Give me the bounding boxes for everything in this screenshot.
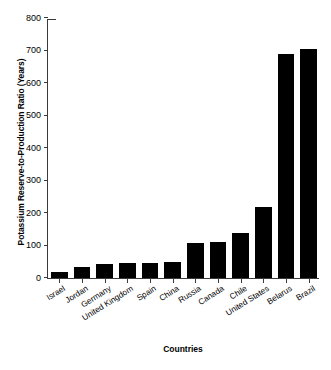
bar [278,54,295,278]
x-tick-mark [59,278,60,283]
x-tick-mark [150,278,151,283]
y-tick-mark [44,147,49,148]
bar [210,242,227,278]
y-tick-label: 500 [26,109,41,122]
bar [300,49,317,278]
y-tick-label: 0 [36,272,41,285]
bar [164,262,181,278]
y-tick-label: 300 [26,174,41,187]
bar [119,263,136,278]
bar [142,263,159,278]
y-tick-mark [44,180,49,181]
x-tick-mark [241,278,242,283]
x-tick-mark [127,278,128,283]
y-tick-label: 200 [26,207,41,220]
x-tick-label-text: Belarus [265,284,294,307]
y-tick-mark [44,17,49,18]
x-tick-mark [105,278,106,283]
y-tick-mark [44,50,49,51]
y-tick-label: 700 [26,44,41,57]
bar [96,264,113,278]
x-tick-label-text: Israel [45,284,67,303]
y-tick-label: 600 [26,77,41,90]
y-tick-mark [44,245,49,246]
bar [255,207,272,279]
x-tick-label-text: China [158,284,181,304]
x-tick-mark [286,278,287,283]
x-tick-mark [173,278,174,283]
x-tick-mark [218,278,219,283]
bar [74,267,91,278]
y-tick-label: 800 [26,12,41,25]
x-axis-title: Countries [47,344,319,354]
y-tick-mark [44,212,49,213]
y-tick-label: 100 [26,239,41,252]
x-tick-mark [195,278,196,283]
y-tick-label: 400 [26,142,41,155]
x-tick-label-text: Brazil [294,284,317,303]
y-tick-mark [44,277,49,278]
x-tick-label-text: Spain [135,284,158,304]
x-tick-label-text: Canada [197,284,227,308]
x-tick-mark [82,278,83,283]
plot-area: 0100200300400500600700800 IsraelJordanGe… [47,19,319,279]
x-tick-mark [309,278,310,283]
bar [187,243,204,278]
bar-chart-figure: Potassium Reserve-to-Production Ratio (Y… [0,0,331,370]
bar [232,233,249,279]
x-tick-label-text: United States [225,284,272,319]
y-tick-mark [44,115,49,116]
x-tick-mark [263,278,264,283]
y-tick-mark [44,82,49,83]
